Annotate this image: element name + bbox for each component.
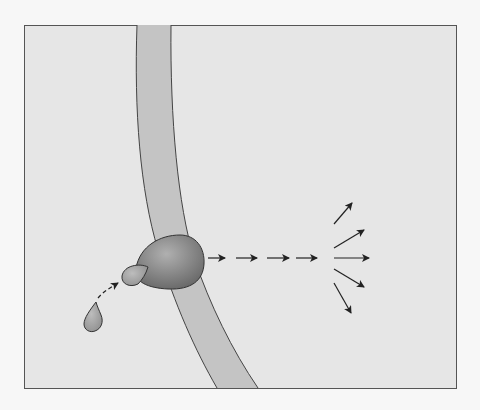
signal-transduction-diagram xyxy=(0,0,480,410)
panel xyxy=(25,26,457,389)
